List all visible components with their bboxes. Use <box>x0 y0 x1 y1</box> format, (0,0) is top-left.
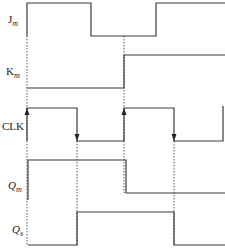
label-qm: Qm <box>8 179 22 194</box>
arrow-up-icon <box>25 108 30 115</box>
label-qs: Qs <box>12 223 23 238</box>
arrow-down-icon <box>172 134 177 141</box>
timing-diagram: Jm Km CLK Qm Qs <box>0 0 225 252</box>
label-clk: CLK <box>2 120 24 132</box>
arrow-up-icon <box>122 108 127 115</box>
signal-labels: Jm Km CLK Qm Qs <box>2 13 24 238</box>
label-jm: Jm <box>8 13 18 28</box>
clock-edge-arrows <box>25 108 177 141</box>
waveform-km <box>27 55 225 88</box>
waveform-jm <box>27 3 225 36</box>
waveforms <box>27 3 225 245</box>
arrow-down-icon <box>75 134 80 141</box>
waveform-qm <box>28 160 225 200</box>
waveform-qs <box>28 212 225 245</box>
label-km: Km <box>6 65 20 80</box>
